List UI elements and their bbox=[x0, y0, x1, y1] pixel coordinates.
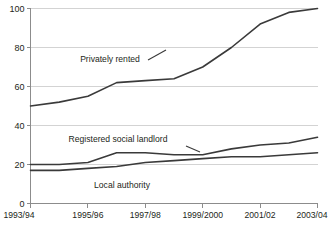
x-axis-tick-label: 1997/98 bbox=[130, 210, 161, 220]
data-series-group bbox=[31, 9, 318, 171]
series-label-2: Local authority bbox=[94, 180, 151, 190]
y-axis-tick-label: 0 bbox=[19, 199, 24, 209]
chart-canvas: Privately rentedRegistered social landlo… bbox=[0, 0, 329, 234]
y-axis-tick-label: 40 bbox=[14, 121, 24, 131]
series-label-0: Privately rented bbox=[80, 54, 140, 64]
series-label-1: Registered social landlord bbox=[69, 134, 168, 144]
x-axis-tick-label: 1999/2000 bbox=[182, 210, 223, 220]
y-axis-tick-label: 20 bbox=[14, 160, 24, 170]
x-axis-tick-label: 2003/04 bbox=[296, 210, 327, 220]
annotation-leader-1 bbox=[186, 146, 200, 152]
line-chart: Privately rentedRegistered social landlo… bbox=[0, 0, 329, 234]
x-axis-tick-label: 2001/02 bbox=[245, 210, 276, 220]
y-axis-tick-label: 60 bbox=[14, 82, 24, 92]
x-axis-ticks-group bbox=[31, 204, 318, 208]
series-line-0 bbox=[31, 9, 318, 107]
y-axis-tick-label: 80 bbox=[14, 43, 24, 53]
y-axis-tick-label: 100 bbox=[9, 4, 24, 14]
y-axis-labels-group: 020406080100 bbox=[9, 4, 24, 209]
annotation-leader-0 bbox=[148, 50, 166, 60]
gridlines-group bbox=[31, 9, 318, 204]
x-axis-tick-label: 1995/96 bbox=[72, 210, 103, 220]
x-axis-tick-label: 1993/94 bbox=[4, 210, 35, 220]
x-axis-labels-group: 1993/941995/961997/981999/20002001/02200… bbox=[4, 210, 328, 220]
